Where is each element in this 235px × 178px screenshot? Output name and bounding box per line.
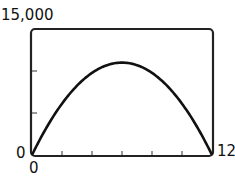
data-curve (32, 63, 212, 155)
x-axis-min-label: 0 (29, 161, 39, 176)
y-axis-ticks (32, 71, 37, 113)
y-axis-max-label: 15,000 (1, 8, 54, 23)
x-axis-ticks (62, 151, 182, 155)
plot-frame (31, 29, 213, 156)
y-axis-min-label: 0 (16, 146, 26, 161)
x-axis-max-label: 12 (217, 144, 235, 159)
plot-area (0, 0, 235, 178)
